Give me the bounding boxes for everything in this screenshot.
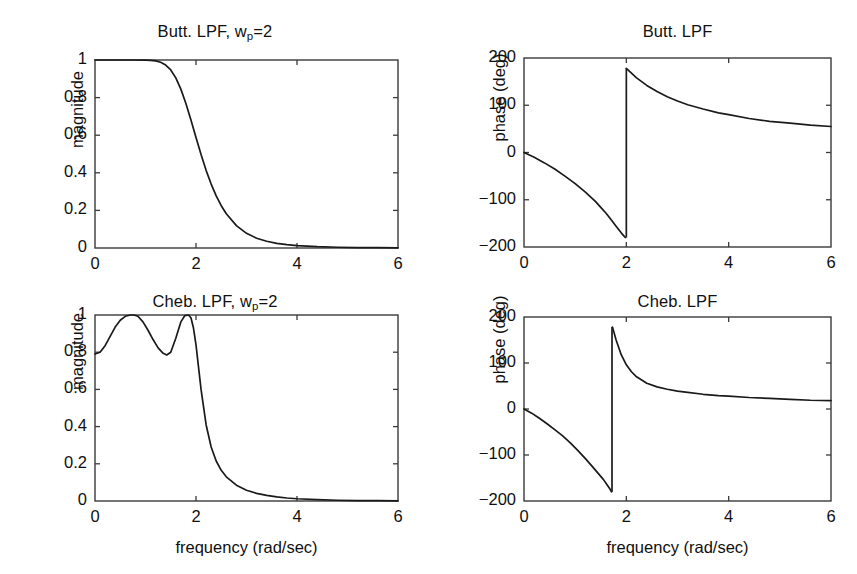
y-axis-label: magnitude bbox=[68, 15, 87, 205]
xtick-label: 6 bbox=[811, 507, 851, 526]
xtick-label: 2 bbox=[606, 253, 646, 272]
figure-canvas: Butt. LPF, wp=2 024600.20.40.60.81magnit… bbox=[0, 0, 857, 574]
xtick-label: 0 bbox=[75, 507, 115, 526]
xtick-label: 6 bbox=[811, 253, 851, 272]
ytick-label: 0 bbox=[15, 490, 87, 509]
ytick-label: 0.2 bbox=[15, 453, 87, 472]
xtick-label: 6 bbox=[378, 254, 418, 273]
ytick-label: −200 bbox=[444, 490, 516, 509]
xtick-label: 2 bbox=[606, 507, 646, 526]
xtick-label: 2 bbox=[176, 507, 216, 526]
y-axis-label: phase (deg) bbox=[490, 3, 509, 193]
ytick-label: 0 bbox=[15, 237, 87, 256]
xtick-label: 4 bbox=[277, 507, 317, 526]
xtick-label: 4 bbox=[709, 253, 749, 272]
xtick-label: 0 bbox=[504, 253, 544, 272]
y-axis-label: phase (deg) bbox=[490, 245, 509, 435]
xtick-label: 4 bbox=[277, 254, 317, 273]
x-axis-label: frequency (rad/sec) bbox=[55, 538, 438, 557]
ytick-label: −100 bbox=[444, 444, 516, 463]
xtick-label: 4 bbox=[709, 507, 749, 526]
xtick-label: 2 bbox=[176, 254, 216, 273]
y-axis-label: magnitude bbox=[68, 257, 87, 447]
panel-chebyshev-phase: Cheb. LPF 0246−200−1000100200phase (deg)… bbox=[430, 290, 857, 574]
xtick-label: 0 bbox=[504, 507, 544, 526]
x-axis-label: frequency (rad/sec) bbox=[484, 538, 857, 557]
panel-chebyshev-magnitude: Cheb. LPF, wp=2 024600.20.40.60.81magnit… bbox=[0, 290, 430, 574]
panel-butterworth-magnitude: Butt. LPF, wp=2 024600.20.40.60.81magnit… bbox=[0, 0, 430, 290]
xtick-label: 6 bbox=[378, 507, 418, 526]
